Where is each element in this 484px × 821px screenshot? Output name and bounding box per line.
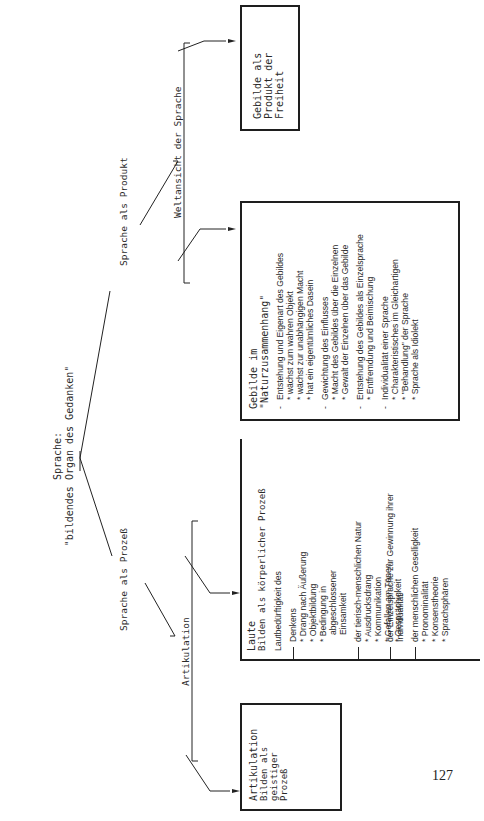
box-natur-head: Gebilde im (248, 213, 259, 409)
box-freiheit: Gebilde als Produkt der Freiheit (240, 5, 300, 131)
natur-section-heading: Individualität einer Sprache (380, 213, 390, 400)
natur-item: Charakteristisches im Gleichartigen (390, 213, 400, 400)
laute-item: Objektbildung (308, 542, 318, 642)
natur-item: Sprache als Idiolekt (410, 213, 420, 400)
laute-item: Konsenstheorie (430, 447, 440, 642)
box-laute-intro: Lautbedürftigkeit des (273, 447, 283, 651)
box-naturzusammenhang: Gebilde im "Naturzusammenhang" Entstehun… (240, 201, 460, 421)
branch-process: Sprache als Prozeß (118, 528, 129, 631)
natur-item: hat ein eigentümliches Dasein (305, 213, 315, 400)
laute-item: Ausdrucksdrang (363, 447, 373, 642)
laute-item: Sprachsphären (440, 447, 450, 642)
box-artikulation-head: Artikulation (248, 713, 259, 801)
box-artikulation: Artikulation Bilden als geistiger Prozeß (240, 703, 342, 811)
laute-section-heading: der Einzelsprache zur Gewinnung ihrer In… (385, 447, 405, 642)
page-number: 127 (432, 768, 453, 784)
laute-section-geselligkeit: der menschlichen Geselligkeit Pronominal… (410, 447, 450, 651)
natur-section-heading: Gewichtung des Einflusses (320, 213, 330, 400)
branch-product: Sprache als Produkt (118, 157, 129, 266)
box-artikulation-sub-2: Prozeß (279, 713, 289, 801)
natur-section-heading: Entstehung und Eigenart des Gebildes (275, 213, 285, 400)
laute-item: Drang nach Äußerung (298, 542, 308, 642)
laute-item: Bedingung in abgeschlossener Einsamkeit (318, 542, 348, 642)
box-natur-sub: "Naturzusammenhang" (259, 213, 270, 409)
root-title-line2: "bildendes Organ des Gedanken" (64, 361, 76, 551)
box-laute: Laute Bilden als körperlicher Prozeß Lau… (240, 439, 380, 661)
branch-worldview: Weltansicht der Sprache (172, 86, 183, 218)
natur-item: wächst zum wahren Objekt (285, 213, 295, 400)
box-laute-continued: der Einzelsprache zur Gewinnung ihrer In… (380, 439, 480, 661)
box-laute-sections: Denkens Drang nach Äußerung Objektbildun… (283, 447, 348, 651)
branch-articulation: Artikulation (180, 617, 191, 686)
natur-section-einzelsprache: Entstehung des Gebildes als Einzelsprach… (355, 213, 375, 409)
laute-section-einzelsprache: der Einzelsprache zur Gewinnung ihrer In… (385, 447, 405, 651)
laute-item: Pronominalität (420, 447, 430, 642)
laute-section-heading: Denkens (288, 542, 298, 642)
natur-item: Macht des Gebildes über die Einzelnen (330, 213, 340, 400)
natur-section-entstehung: Entstehung und Eigenart des Gebildes wäc… (275, 213, 315, 409)
laute-section-denkens: Denkens Drang nach Äußerung Objektbildun… (288, 542, 348, 651)
natur-item: wächst zur unabhängigen Macht (295, 213, 305, 400)
box-freiheit-head: Gebilde als (252, 17, 263, 119)
natur-item: "Behandlung" der Sprache (400, 213, 410, 400)
natur-section-gewichtung: Gewichtung des Einflusses Macht des Gebi… (320, 213, 350, 409)
box-laute-head: Laute (246, 447, 257, 651)
natur-section-heading: Entstehung des Gebildes als Einzelsprach… (355, 213, 365, 400)
natur-item: Gewalt der Einzelnen über das Gebilde (340, 213, 350, 400)
laute-section-heading: der menschlichen Geselligkeit (410, 447, 420, 642)
root-title: Sprache: "bildendes Organ des Gedanken" (52, 361, 76, 551)
laute-section-heading: der tierisch-menschlichen Natur (353, 447, 363, 642)
natur-section-individualitaet: Individualität einer Sprache Charakteris… (380, 213, 420, 409)
root-title-line1: Sprache: (52, 361, 64, 551)
natur-item: Entfremdung und Beimischung (365, 213, 375, 400)
rotated-page: Sprache: "bildendes Organ des Gedanken" … (0, 0, 484, 821)
box-laute-sub: Bilden als körperlicher Prozeß (257, 447, 267, 651)
box-artikulation-sub-1: Bilden als geistiger (259, 713, 279, 801)
box-freiheit-sub: Produkt der Freiheit (263, 17, 285, 119)
